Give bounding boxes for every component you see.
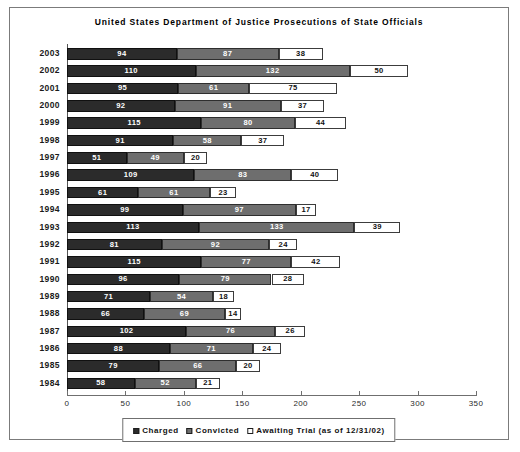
x-axis-line [67, 395, 477, 396]
bar-row: 19911157742 [67, 254, 476, 271]
bar-segment-convicted: 77 [201, 256, 291, 268]
bar-value-label: 40 [292, 171, 337, 179]
x-tick-label: 50 [121, 399, 131, 408]
bar-value-label: 44 [296, 119, 345, 127]
bar-segment-charged: 99 [67, 204, 183, 216]
bar-segment-charged: 115 [67, 256, 201, 268]
year-axis-label: 1994 [39, 204, 60, 214]
bar-segment-convicted: 66 [159, 360, 236, 372]
bar-segment-charged: 58 [67, 378, 135, 390]
bar-value-label: 97 [184, 206, 295, 214]
bar-segment-charged: 71 [67, 291, 150, 303]
bar-row: 1995616123 [67, 185, 476, 202]
year-axis-label: 2001 [39, 83, 60, 93]
bar-row: 19991158044 [67, 115, 476, 132]
bar-value-label: 115 [68, 258, 200, 266]
legend-label: Convicted [196, 426, 240, 435]
legend-swatch-icon [187, 428, 193, 434]
bar-segment-awaiting: 18 [213, 291, 234, 303]
bar-segment-charged: 81 [67, 239, 162, 251]
bar-value-label: 92 [68, 102, 174, 110]
x-tick-label: 200 [293, 399, 308, 408]
bar-value-label: 20 [185, 154, 206, 162]
bar-value-label: 96 [68, 276, 178, 284]
bar-segment-convicted: 76 [186, 326, 275, 338]
bar-value-label: 77 [202, 258, 290, 266]
chart-title: United States Department of Justice Pros… [10, 17, 508, 27]
bar-segment-charged: 113 [67, 222, 199, 234]
bar-value-label: 51 [68, 154, 126, 162]
year-axis-label: 1993 [39, 222, 60, 232]
bar-segment-convicted: 61 [138, 187, 209, 199]
legend-item[interactable]: Awaiting Trial (as of 12/31/02) [247, 426, 385, 435]
year-axis-label: 1988 [39, 308, 60, 318]
bar-value-label: 61 [139, 189, 208, 197]
bar-segment-awaiting: 42 [291, 256, 340, 268]
bar-value-label: 50 [351, 67, 407, 75]
bar-segment-awaiting: 40 [291, 169, 338, 181]
bar-segment-convicted: 79 [179, 274, 271, 286]
x-tick-label: 350 [469, 399, 484, 408]
year-axis-label: 1991 [39, 256, 60, 266]
year-axis-label: 2003 [39, 48, 60, 58]
bar-segment-awaiting: 75 [249, 83, 337, 95]
bar-value-label: 42 [292, 258, 339, 266]
bar-row: 1984585221 [67, 376, 476, 393]
x-tick-label: 300 [410, 399, 425, 408]
bar-value-label: 21 [197, 380, 220, 388]
bar-segment-charged: 115 [67, 117, 201, 129]
bar-value-label: 99 [68, 206, 182, 214]
bar-value-label: 52 [136, 380, 195, 388]
bar-segment-charged: 95 [67, 83, 178, 95]
bar-segment-awaiting: 44 [295, 117, 346, 129]
year-axis-label: 1985 [39, 360, 60, 370]
x-tick-mark [476, 391, 477, 396]
year-axis-label: 2002 [39, 65, 60, 75]
bar-segment-convicted: 132 [196, 65, 350, 77]
year-axis-label: 1996 [39, 169, 60, 179]
bar-segment-charged: 102 [67, 326, 186, 338]
bar-value-label: 132 [197, 67, 349, 75]
bar-segment-awaiting: 20 [184, 152, 207, 164]
bar-segment-awaiting: 26 [275, 326, 305, 338]
legend-label: Charged [142, 426, 178, 435]
bar-segment-awaiting: 28 [272, 274, 305, 286]
bar-value-label: 79 [180, 276, 270, 284]
bar-segment-charged: 79 [67, 360, 159, 372]
bar-row: 2001956175 [67, 81, 476, 98]
bar-row: 19961098340 [67, 167, 476, 184]
x-tick-label: 150 [235, 399, 250, 408]
bar-value-label: 80 [202, 119, 293, 127]
bar-value-label: 91 [68, 137, 172, 145]
bar-row: 1990967928 [67, 272, 476, 289]
bar-segment-awaiting: 23 [210, 187, 237, 199]
bar-row: 2000929137 [67, 98, 476, 115]
bar-value-label: 91 [176, 102, 280, 110]
chart-legend: ChargedConvictedAwaiting Trial (as of 12… [122, 418, 395, 442]
bar-segment-charged: 96 [67, 274, 179, 286]
bar-value-label: 61 [68, 189, 137, 197]
legend-item[interactable]: Convicted [187, 426, 240, 435]
bar-value-label: 76 [187, 328, 274, 336]
bar-value-label: 17 [297, 206, 315, 214]
bar-segment-convicted: 49 [127, 152, 184, 164]
legend-label: Awaiting Trial (as of 12/31/02) [256, 426, 385, 435]
bar-row: 2003948738 [67, 46, 476, 63]
bar-segment-charged: 91 [67, 135, 173, 147]
bar-value-label: 94 [68, 50, 176, 58]
bar-value-label: 54 [151, 293, 212, 301]
bar-value-label: 115 [68, 119, 200, 127]
bar-segment-charged: 61 [67, 187, 138, 199]
bar-row: 200211013250 [67, 63, 476, 80]
bar-segment-awaiting: 20 [236, 360, 259, 372]
bar-value-label: 37 [282, 102, 323, 110]
bar-row: 19871027626 [67, 324, 476, 341]
bar-value-label: 26 [276, 328, 304, 336]
legend-item[interactable]: Charged [133, 426, 178, 435]
year-axis-label: 2000 [39, 100, 60, 110]
year-axis-label: 1995 [39, 187, 60, 197]
bar-segment-convicted: 92 [162, 239, 270, 251]
bar-value-label: 109 [68, 171, 193, 179]
bar-segment-awaiting: 21 [196, 378, 221, 390]
bar-value-label: 14 [226, 310, 240, 318]
